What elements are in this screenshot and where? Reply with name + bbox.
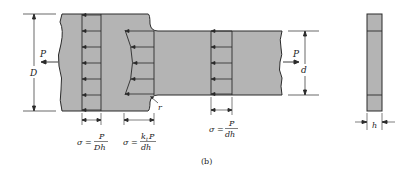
stepped-bar-diagram: P P D d r h: [0, 0, 419, 180]
svg-text:dh: dh: [141, 143, 151, 152]
dimension-label-D: D: [29, 68, 37, 78]
dimension-label-h: h: [372, 121, 377, 130]
svg-text:σ =: σ =: [209, 125, 224, 134]
load-arrow-right: [283, 60, 299, 64]
figure-label: (b): [201, 157, 212, 166]
svg-text:σ =: σ =: [123, 138, 138, 147]
svg-text:P: P: [228, 119, 235, 128]
stepped-bar-body: [58, 14, 282, 111]
dimension-label-d: d: [301, 65, 307, 75]
fillet-label-r: r: [158, 103, 163, 112]
svg-text:P: P: [98, 132, 105, 141]
svg-text:σ =: σ =: [77, 138, 92, 147]
dimension-d: [288, 31, 319, 95]
svg-text:dh: dh: [225, 130, 235, 139]
stress-formula-max-concentration: σ = k t P dh: [123, 132, 156, 152]
load-arrow-left: [41, 60, 58, 64]
dimension-D: [23, 14, 56, 111]
svg-text:Dh: Dh: [93, 143, 106, 152]
svg-text:P: P: [148, 132, 155, 141]
load-label-right: P: [292, 49, 300, 59]
stress-formula-nominal-narrow: σ = P dh: [209, 119, 238, 139]
load-label-left: P: [39, 49, 47, 59]
stress-formula-nominal-wide: σ = P Dh: [77, 132, 108, 152]
side-view: [367, 14, 382, 111]
